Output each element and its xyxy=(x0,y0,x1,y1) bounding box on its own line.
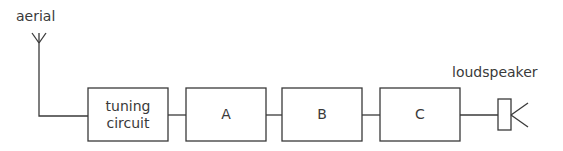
tuning-circuit-label-line1: tuning xyxy=(106,98,151,115)
tuning-circuit-label-line2: circuit xyxy=(107,115,150,132)
block-b-label: B xyxy=(282,88,362,141)
aerial-wire xyxy=(39,43,88,116)
tuning-circuit-label: tuning circuit xyxy=(88,88,168,141)
loudspeaker-label: loudspeaker xyxy=(452,64,538,80)
block-a-label: A xyxy=(186,88,266,141)
loudspeaker-icon xyxy=(498,99,528,130)
block-c-label: C xyxy=(380,88,460,141)
aerial-label: aerial xyxy=(16,8,55,24)
aerial-icon xyxy=(32,33,46,43)
